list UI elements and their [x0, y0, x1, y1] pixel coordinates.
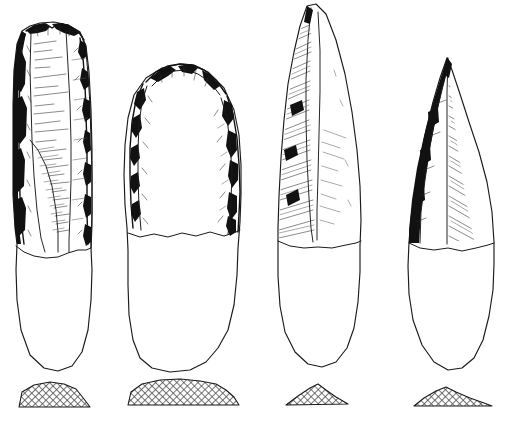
artifact-3: [278, 4, 361, 405]
artifact-4: [408, 57, 494, 406]
artifact-2-section: [128, 379, 239, 405]
plate-canvas: [0, 0, 505, 423]
artifact-3-outline: [278, 4, 361, 367]
artifact-3-section: [286, 384, 348, 405]
artifact-2: [124, 64, 241, 405]
artifact-plate: [0, 0, 505, 423]
artifact-1: [13, 22, 92, 407]
artifact-1-section: [19, 382, 90, 407]
artifact-4-section: [414, 387, 492, 406]
